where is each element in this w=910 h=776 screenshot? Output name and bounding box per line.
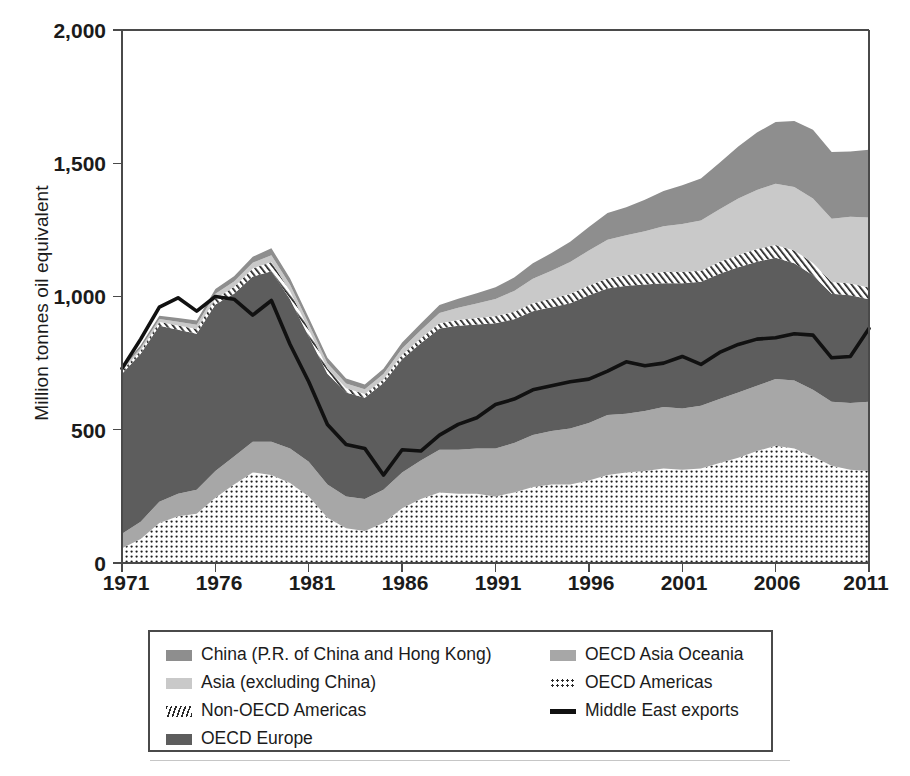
legend-label: Middle East exports — [585, 702, 739, 720]
middle-east-line-swatch — [550, 709, 576, 714]
legend-label: OECD Americas — [585, 674, 712, 692]
legend-label: OECD Europe — [201, 730, 313, 748]
legend-item[interactable]: China (P.R. of China and Hong Kong) — [166, 642, 496, 668]
legend-label: China (P.R. of China and Hong Kong) — [201, 646, 492, 664]
legend-label: OECD Asia Oceania — [585, 646, 744, 664]
legend-item[interactable]: OECD Asia Oceania — [550, 642, 770, 668]
chart-figure: Million tonnes oil equivalent 2,000 1,50… — [0, 0, 910, 776]
legend-label: Non-OECD Americas — [201, 702, 366, 720]
legend-item[interactable]: OECD Americas — [550, 670, 770, 696]
legend-item[interactable]: Non-OECD Americas — [166, 698, 496, 724]
legend-label: Asia (excluding China) — [201, 674, 376, 692]
legend-item[interactable]: Asia (excluding China) — [166, 670, 496, 696]
legend-column-left: China (P.R. of China and Hong Kong) Asia… — [166, 642, 496, 754]
non-oecd-americas-swatch — [166, 706, 192, 717]
legend-item[interactable]: OECD Europe — [166, 726, 496, 752]
oecd-asia-oceania-swatch — [550, 650, 576, 661]
legend-item[interactable]: Middle East exports — [550, 698, 770, 724]
asia-swatch — [166, 678, 192, 689]
page-rule — [150, 760, 790, 761]
chart-legend: China (P.R. of China and Hong Kong) Asia… — [148, 630, 773, 752]
oecd-americas-swatch — [550, 678, 576, 689]
china-swatch — [166, 650, 192, 661]
legend-column-right: OECD Asia Oceania OECD Americas Middle E… — [550, 642, 770, 726]
oecd-europe-swatch — [166, 734, 192, 745]
